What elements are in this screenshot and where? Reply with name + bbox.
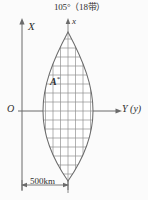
arrow-up-icon <box>19 18 24 25</box>
point-a-label: A* <box>50 76 60 87</box>
x-axis-group <box>19 18 24 191</box>
point-a-superscript: * <box>57 75 61 83</box>
y-axis-label: Y (y) <box>122 104 141 114</box>
figure-canvas <box>0 0 148 200</box>
zone-title-label: 105°（18带） <box>54 3 105 12</box>
point-a-letter: A <box>50 76 57 87</box>
origin-label: O <box>7 104 14 114</box>
arrow-up-small-icon <box>66 18 71 24</box>
scale-bar-label: 500km <box>30 177 55 186</box>
central-meridian-axis-label: x <box>72 17 76 26</box>
x-axis-label: X <box>28 21 35 32</box>
gauss-kruger-zone-figure: 105°（18带） x X O Y (y) A* 500km <box>0 0 148 200</box>
